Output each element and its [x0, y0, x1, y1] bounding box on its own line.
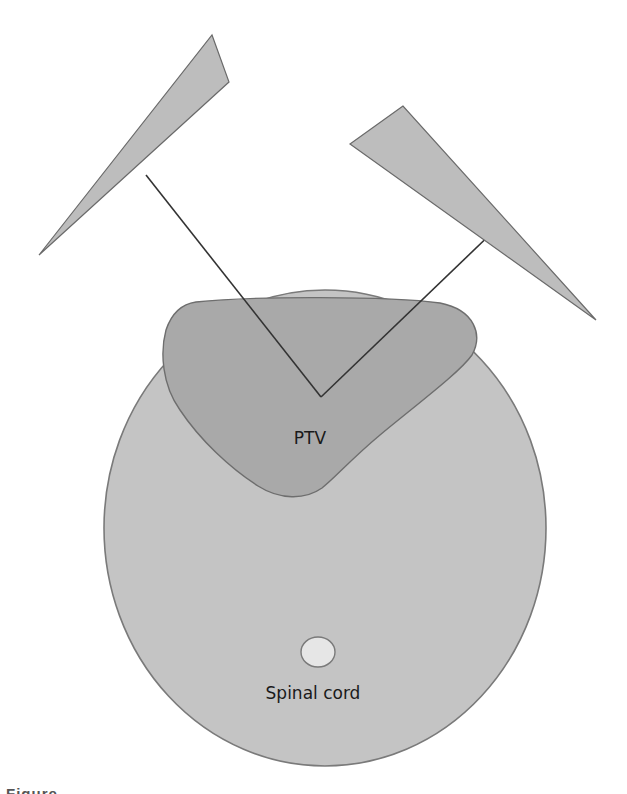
right-beam-wedge [350, 106, 596, 320]
figure-caption-text: Figure [0, 786, 627, 794]
left-beam-wedge [39, 35, 229, 255]
beam-arrangement-diagram: PTV Spinal cord [0, 0, 627, 794]
ptv-label: PTV [294, 428, 327, 448]
figure-caption: Figure [0, 786, 627, 794]
spinal-cord [301, 637, 335, 667]
spinal-cord-label: Spinal cord [266, 683, 361, 703]
